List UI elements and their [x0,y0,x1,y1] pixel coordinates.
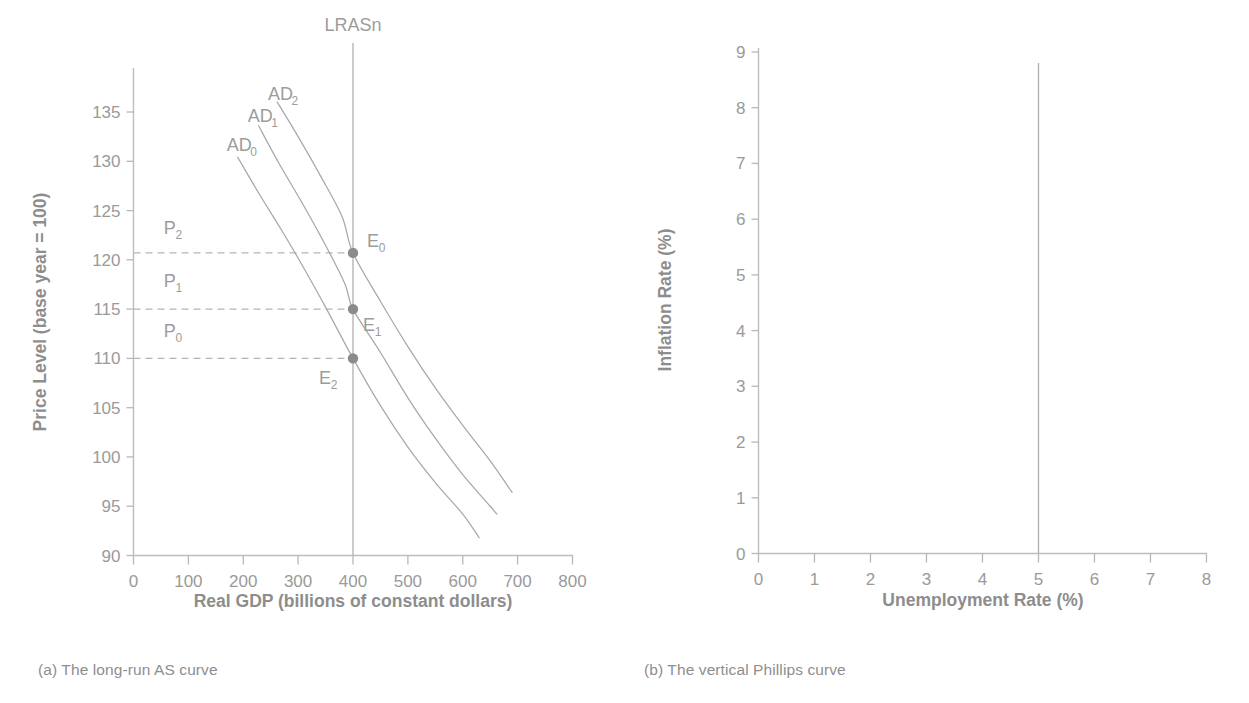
marker-label-e-1-subscript: 1 [375,325,382,339]
panel-long-run-as-curve: 9095100105110115120125130135 01002003004… [0,0,625,703]
x-tick-label: 400 [339,572,367,591]
y-tick-label: 100 [92,448,120,467]
marker-label-e-1-label: E [363,315,375,335]
x-tick-label: 4 [978,570,987,589]
y-tick-label: 8 [736,99,745,118]
chart-vertical-phillips: 0123456789 012345678 Unemployment Rate (… [625,0,1249,640]
x-tick-label: 3 [922,570,931,589]
y-tick-label: 0 [736,545,745,564]
y-axis-ticks: 9095100105110115120125130135 [92,103,133,566]
curve-ad-0 [238,157,479,537]
y-tick-label: 125 [92,202,120,221]
price-level-guides [134,253,354,359]
y-axis-ticks: 0123456789 [736,43,758,564]
y-tick-label: 6 [736,210,745,229]
marker-label-e-0-label: E [367,231,379,251]
y-tick-label: 105 [92,399,120,418]
x-axis-ticks: 012345678 [754,554,1211,589]
y-tick-label: 135 [92,103,120,122]
x-tick-label: 300 [284,572,312,591]
curve-label-ad-1-label: AD [248,106,273,126]
marker-label-e-0-subscript: 0 [379,241,386,255]
curve-ad-2 [277,102,512,492]
x-tick-label: 200 [229,572,257,591]
x-tick-label: 100 [174,572,202,591]
y-tick-label: 3 [736,377,745,396]
y-tick-label: 5 [736,266,745,285]
x-tick-label: 5 [1034,570,1043,589]
y-tick-label: 110 [93,349,120,368]
x-tick-label: 500 [394,572,422,591]
annotation-p-0-label: P [164,321,176,341]
curve-label-ad-0-subscript: 0 [250,145,257,159]
curve-label-ad-0-label: AD [227,135,252,155]
curve-label-ad-1-subscript: 1 [271,116,278,130]
curve-ad-1 [259,126,497,514]
x-tick-label: 800 [558,572,586,591]
panel-vertical-phillips-curve: 0123456789 012345678 Unemployment Rate (… [625,0,1249,703]
annotation-p-0-subscript: 0 [176,331,183,345]
y-axis-title: Price Level (base year = 100) [30,193,50,432]
x-tick-label: 0 [129,572,138,591]
marker-e-0 [348,248,358,258]
annotation-p-1-label: P [164,271,176,291]
x-tick-label: 8 [1202,570,1211,589]
x-tick-label: 7 [1146,570,1155,589]
y-tick-label: 120 [92,251,120,270]
annotation-p-2-subscript: 2 [176,228,183,242]
x-axis-title: Real GDP (billions of constant dollars) [194,591,513,611]
x-tick-label: 6 [1090,570,1099,589]
panel-b-caption: (b) The vertical Phillips curve [644,661,846,679]
x-tick-label: 700 [503,572,531,591]
annotation-p-2-label: P [164,218,176,238]
y-tick-label: 95 [102,497,121,516]
x-tick-label: 600 [449,572,477,591]
lras-vertical-line: LRASn [324,15,381,556]
annotation-p-1-subscript: 1 [176,281,183,295]
chart-long-run-as: 9095100105110115120125130135 01002003004… [0,0,625,640]
y-axis-title: Inflation Rate (%) [655,229,675,372]
x-tick-label: 1 [810,570,819,589]
marker-e-1 [348,304,358,314]
figure-root: 9095100105110115120125130135 01002003004… [0,0,1249,703]
x-tick-label: 2 [866,570,875,589]
lras-label: LRASn [324,15,381,35]
panel-a-caption: (a) The long-run AS curve [38,661,218,679]
marker-label-e-2-subscript: 2 [331,378,338,392]
y-tick-label: 115 [93,300,120,319]
curve-label-ad-2-label: AD [268,84,293,104]
x-tick-label: 0 [754,570,763,589]
y-tick-label: 1 [736,489,745,508]
y-tick-label: 2 [736,433,745,452]
marker-e-2 [348,353,358,363]
curve-label-ad-2-subscript: 2 [292,94,299,108]
y-tick-label: 7 [736,154,745,173]
y-tick-label: 9 [736,43,745,62]
y-tick-label: 4 [736,322,745,341]
x-axis-ticks: 0100200300400500600700800 [129,556,587,591]
x-axis-title: Unemployment Rate (%) [882,590,1083,610]
y-tick-label: 130 [92,152,120,171]
y-tick-label: 90 [102,547,121,566]
marker-label-e-2-label: E [319,368,331,388]
